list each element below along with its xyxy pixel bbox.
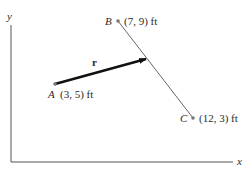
vector-r xyxy=(55,59,146,84)
point-c-coords: (12, 3) ft xyxy=(199,113,238,124)
y-axis-label: y xyxy=(7,11,12,22)
point-c-name: C xyxy=(180,113,187,124)
point-a-name: A xyxy=(48,89,55,100)
point-b-name: B xyxy=(105,16,112,27)
point-a-coords: (3, 5) ft xyxy=(60,89,93,100)
point-b-dot xyxy=(116,19,120,23)
line-bc xyxy=(118,21,193,118)
vector-r-label: r xyxy=(92,57,97,68)
point-c-dot xyxy=(191,116,195,120)
point-a-dot xyxy=(53,82,57,86)
x-axis-label: x xyxy=(237,156,242,167)
point-b-coords: (7, 9) ft xyxy=(124,16,157,27)
